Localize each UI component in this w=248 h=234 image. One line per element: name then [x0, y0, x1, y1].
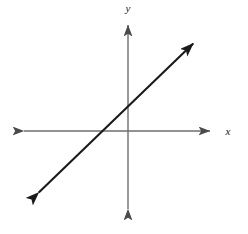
graph-canvas: y x	[0, 0, 248, 234]
data-line-group	[39, 44, 193, 193]
linear-function-line	[39, 44, 193, 193]
y-axis-label: y	[125, 2, 131, 14]
coordinate-plane-figure: y x	[0, 0, 248, 234]
x-axis-label: x	[225, 125, 231, 137]
